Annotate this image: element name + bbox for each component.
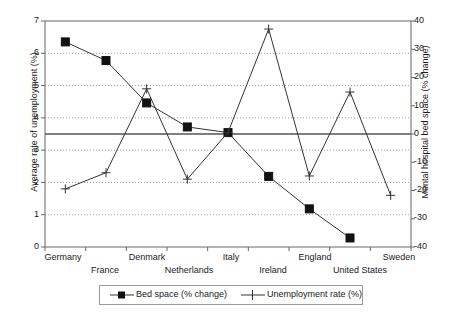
- legend-marker-cross-icon: [241, 289, 265, 301]
- chart-legend: Bed space (% change) Unemployment rate (…: [99, 285, 363, 305]
- chart-container: Average rate of unemployment (%) Mental …: [0, 0, 459, 323]
- legend-marker-square-icon: [110, 289, 134, 301]
- legend-label-unemployment: Unemployment rate (%): [267, 289, 362, 299]
- plot-area: [0, 0, 459, 323]
- series-bed-space: [61, 38, 354, 242]
- series-unemployment-rate: [61, 25, 395, 200]
- legend-label-bed-space: Bed space (% change): [136, 289, 227, 299]
